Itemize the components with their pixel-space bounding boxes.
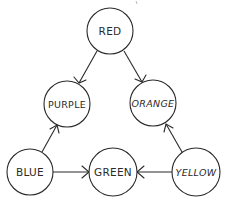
node-label-red: RED	[99, 25, 122, 37]
edge-blue-to-purple	[42, 125, 59, 152]
node-label-green: GREEN	[94, 166, 132, 178]
edge-yellow-to-green	[137, 166, 172, 178]
cropped-mark	[136, 1, 137, 4]
edge-yellow-to-orange	[164, 124, 182, 152]
node-label-yellow: YELLOW	[176, 167, 217, 178]
node-purple: PURPLE	[44, 81, 90, 127]
node-label-blue: BLUE	[16, 166, 44, 178]
edge-red-to-purple	[74, 51, 97, 83]
arrowhead-icon	[74, 77, 86, 83]
node-blue: BLUE	[7, 149, 53, 195]
node-label-purple: PURPLE	[48, 99, 86, 110]
edge-blue-to-green	[53, 166, 89, 178]
node-red: RED	[87, 8, 133, 54]
node-orange: ORANGE	[130, 80, 176, 126]
node-yellow: YELLOW	[172, 148, 220, 196]
node-label-orange: ORANGE	[132, 98, 175, 109]
edge-red-to-orange	[124, 51, 146, 82]
color-diagram: RED PURPLE ORANGE BLUE GREEN YELLOW	[0, 0, 229, 202]
node-green: GREEN	[89, 148, 137, 196]
